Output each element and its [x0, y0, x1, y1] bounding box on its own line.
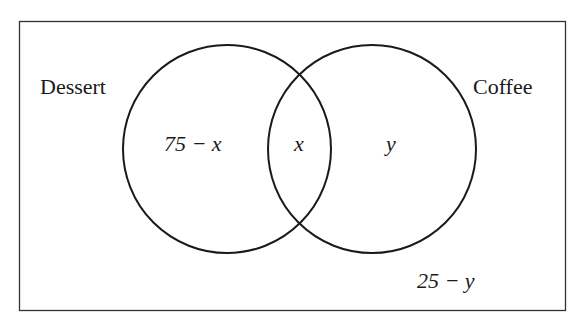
venn-diagram [0, 0, 584, 336]
dessert-only-region: 75 − x [164, 133, 222, 155]
coffee-label: Coffee [473, 76, 532, 98]
dessert-label: Dessert [40, 76, 106, 98]
coffee-only-region: y [386, 133, 396, 155]
universal-set-box [20, 22, 566, 311]
intersection-region: x [294, 133, 304, 155]
outside-region: 25 − y [417, 270, 475, 292]
